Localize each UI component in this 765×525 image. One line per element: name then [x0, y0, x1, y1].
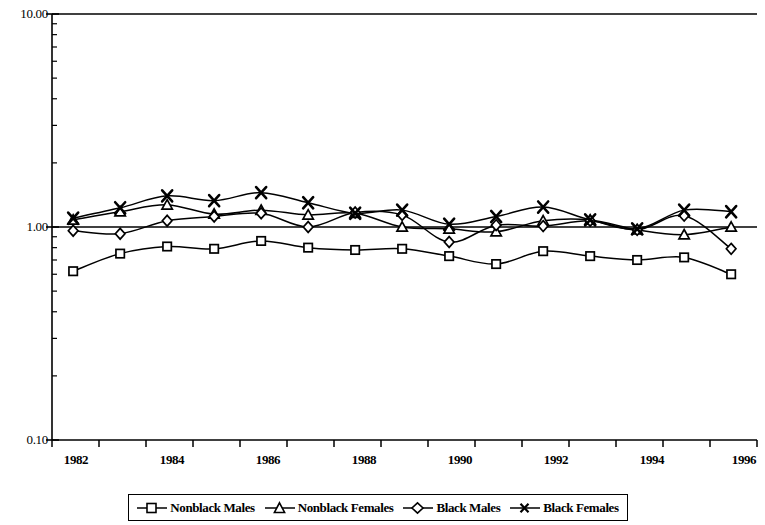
- legend-label: Nonblack Males: [170, 500, 254, 516]
- diamond-marker: [115, 228, 125, 239]
- legend-label: Nonblack Females: [298, 500, 394, 516]
- chart-container: 10.00 1.00 0.10 1982 1984 1986 1988 1990…: [0, 0, 765, 525]
- legend-entry-black-females: Black Females: [505, 500, 623, 516]
- legend-label: Black Females: [543, 500, 618, 516]
- plot-area: [0, 0, 765, 525]
- square-marker: [445, 252, 453, 260]
- square-marker: [492, 260, 500, 268]
- diamond-marker: [303, 222, 313, 233]
- diamond-marker: [726, 243, 736, 254]
- square-marker: [210, 245, 218, 253]
- diamond-marker: [209, 211, 219, 222]
- triangle-marker-icon: [265, 501, 295, 515]
- square-marker: [304, 243, 312, 251]
- legend-entry-black-males: Black Males: [398, 500, 505, 516]
- square-marker-icon: [137, 501, 167, 515]
- square-marker: [727, 270, 735, 278]
- legend-label: Black Males: [436, 500, 500, 516]
- series-nonblack-males: [69, 237, 735, 279]
- cross-marker: [303, 197, 313, 208]
- square-marker: [398, 245, 406, 253]
- square-marker: [633, 256, 641, 264]
- diamond-marker: [162, 215, 172, 226]
- series-group: [68, 187, 736, 278]
- square-marker: [257, 237, 265, 245]
- chart-legend: Nonblack Males Nonblack Females Black Ma…: [128, 494, 628, 521]
- square-marker: [351, 246, 359, 254]
- diamond-marker-icon: [403, 501, 433, 515]
- legend-entry-nonblack-females: Nonblack Females: [260, 500, 399, 516]
- square-marker: [163, 242, 171, 250]
- square-marker: [586, 252, 594, 260]
- x-axis-ticks: [52, 440, 757, 447]
- square-marker: [680, 253, 688, 261]
- cross-marker-icon: [510, 501, 540, 515]
- square-marker: [116, 249, 124, 257]
- legend-entry-nonblack-males: Nonblack Males: [132, 500, 259, 516]
- square-marker: [69, 267, 77, 275]
- square-marker: [539, 247, 547, 255]
- diamond-marker: [444, 237, 454, 248]
